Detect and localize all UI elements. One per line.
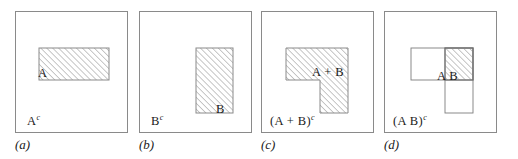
set-a-intersect-b-complement-base: (A B) [393, 114, 423, 128]
panel-b-caption: (b) [139, 137, 154, 153]
set-a-union-b-label: A + B [312, 65, 344, 80]
set-a-union-b-complement-base: (A + B) [270, 114, 311, 128]
set-a-complement-superscript: c [36, 113, 40, 122]
set-a-intersect-b-label: A B [437, 69, 458, 84]
panel-b-universe: B Bc [139, 11, 252, 133]
set-b-complement-superscript: c [160, 113, 164, 122]
set-a-complement-label: Ac [27, 113, 40, 129]
set-operations-figure: A Ac (a) B Bc (b) [0, 0, 518, 159]
panel-c-universe: A + B (A + B)c [261, 11, 374, 133]
set-a-label: A [38, 66, 47, 81]
set-a-region [39, 48, 109, 80]
set-a-union-b-complement-superscript: c [311, 113, 315, 122]
panel-c-caption: (c) [261, 137, 275, 153]
set-a-union-b-complement-label: (A + B)c [270, 113, 315, 129]
panel-a-universe: A Ac [15, 11, 128, 133]
set-a-intersect-b-complement-superscript: c [423, 113, 427, 122]
set-a-union-b-region [286, 48, 348, 113]
set-b-complement-label: Bc [151, 113, 163, 129]
set-b-label: B [216, 102, 225, 117]
panel-d-caption: (d) [384, 137, 399, 153]
set-a-intersect-b-complement-label: (A B)c [393, 113, 427, 129]
set-b-region [196, 48, 233, 113]
panel-a-caption: (a) [15, 137, 30, 153]
panel-d-universe: A B (A B)c [384, 11, 497, 133]
set-b-complement-base: B [151, 114, 160, 128]
